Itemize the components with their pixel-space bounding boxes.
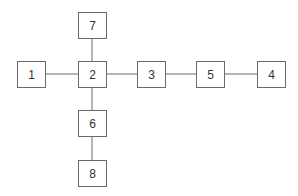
node-label: 6: [89, 117, 96, 131]
node-4: 4: [258, 62, 286, 88]
node-label: 2: [89, 68, 96, 82]
node-3: 3: [138, 62, 166, 88]
node-5: 5: [197, 62, 225, 88]
node-8: 8: [79, 161, 107, 187]
node-2: 2: [79, 62, 107, 88]
node-1: 1: [18, 62, 46, 88]
edges: [45, 38, 257, 160]
node-label: 7: [89, 19, 96, 33]
node-label: 8: [89, 167, 96, 181]
tree-diagram: 12735468: [0, 0, 298, 196]
nodes: 12735468: [18, 13, 286, 187]
node-label: 5: [207, 68, 214, 82]
node-7: 7: [79, 13, 107, 39]
node-6: 6: [79, 111, 107, 137]
node-label: 3: [148, 68, 155, 82]
node-label: 1: [28, 68, 35, 82]
node-label: 4: [268, 68, 275, 82]
